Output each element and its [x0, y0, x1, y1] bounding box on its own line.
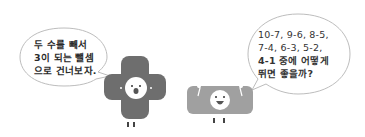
left-bubble-text: 두 수를 빼서 3이 되는 뺄셈 으로 건너보자.	[34, 38, 97, 77]
minus-character	[187, 84, 253, 123]
left-bubble-line: 으로 건너보자.	[34, 64, 97, 77]
right-bubble-line: 10-7, 9-6, 8-5,	[258, 28, 329, 41]
right-bubble-text: 10-7, 9-6, 8-5, 7-4, 6-3, 5-2, 4-1 중에 어떻…	[258, 28, 329, 80]
right-bubble-line: 7-4, 6-3, 5-2,	[258, 41, 329, 54]
left-bubble-line: 두 수를 빼서	[34, 38, 97, 51]
left-bubble-line: 3이 되는 뺄셈	[34, 51, 97, 64]
illustration-scene: 두 수를 빼서 3이 되는 뺄셈 으로 건너보자. 10-7, 9-6, 8-5…	[0, 0, 365, 137]
face-icon	[210, 90, 230, 110]
plus-character	[104, 56, 166, 127]
right-bubble-line: 4-1 중에 어떻게	[258, 54, 329, 67]
right-bubble-line: 뛰면 좋을까?	[258, 67, 329, 80]
